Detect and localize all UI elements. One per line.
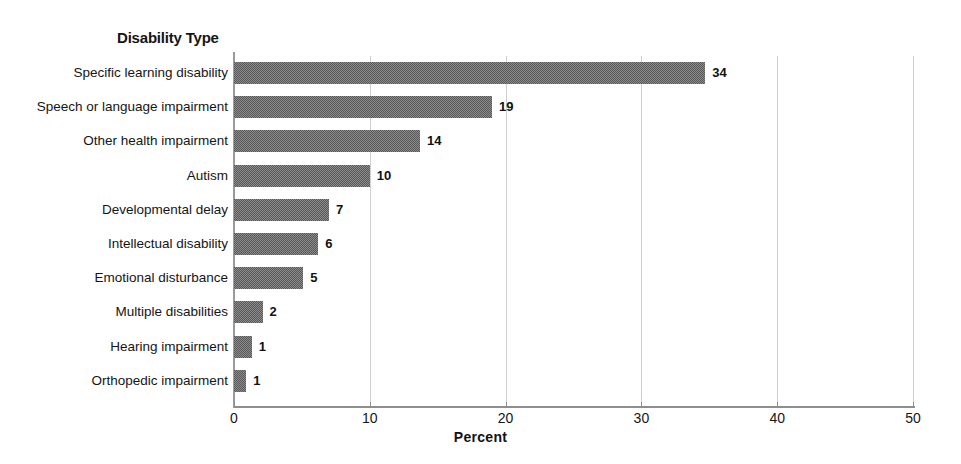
bar-row: 6	[234, 227, 913, 261]
category-label: Orthopedic impairment	[8, 373, 228, 388]
bar[interactable]	[234, 301, 263, 323]
tick-mark-0	[234, 402, 235, 407]
bar-row: 34	[234, 56, 913, 90]
bar[interactable]	[234, 336, 252, 358]
category-label: Speech or language impairment	[8, 99, 228, 114]
bar-value-label: 34	[712, 65, 726, 80]
x-tick-label-0: 0	[230, 410, 238, 426]
bar[interactable]	[234, 96, 492, 118]
chart-figure: Disability Type 34191410765211 Specific …	[0, 0, 961, 464]
bar-value-label: 5	[310, 270, 317, 285]
tick-mark-10	[370, 402, 371, 407]
category-label: Other health impairment	[8, 133, 228, 148]
x-tick-label-30: 30	[634, 410, 650, 426]
bar[interactable]	[234, 62, 705, 84]
bar-row: 14	[234, 124, 913, 158]
bar-value-label: 1	[253, 373, 260, 388]
bar-value-label: 10	[377, 168, 391, 183]
category-axis-labels: Specific learning disabilitySpeech or la…	[0, 56, 228, 406]
tick-mark-20	[506, 402, 507, 407]
bar-row: 2	[234, 295, 913, 329]
x-tick-label-20: 20	[498, 410, 514, 426]
gridline-50	[913, 56, 914, 406]
x-tick-label-40: 40	[769, 410, 785, 426]
bar-value-label: 7	[336, 202, 343, 217]
bar-row: 1	[234, 364, 913, 398]
bar[interactable]	[234, 267, 303, 289]
category-label: Hearing impairment	[8, 339, 228, 354]
bar-value-label: 6	[325, 236, 332, 251]
bar[interactable]	[234, 370, 246, 392]
bar[interactable]	[234, 233, 318, 255]
bar-row: 7	[234, 193, 913, 227]
x-axis-line	[234, 406, 915, 408]
category-label: Multiple disabilities	[8, 304, 228, 319]
bar[interactable]	[234, 165, 370, 187]
x-tick-label-50: 50	[905, 410, 921, 426]
category-label: Developmental delay	[8, 202, 228, 217]
bar-value-label: 1	[259, 339, 266, 354]
bar-value-label: 14	[427, 133, 441, 148]
plot-area: 34191410765211	[234, 56, 913, 406]
tick-mark-50	[913, 402, 914, 407]
bar-value-label: 2	[270, 304, 277, 319]
category-label: Intellectual disability	[8, 236, 228, 251]
bar[interactable]	[234, 130, 420, 152]
chart-title: Disability Type	[117, 29, 219, 46]
category-label: Autism	[8, 168, 228, 183]
bar-row: 10	[234, 159, 913, 193]
tick-mark-30	[641, 402, 642, 407]
bar-row: 5	[234, 261, 913, 295]
bar[interactable]	[234, 199, 329, 221]
x-tick-label-10: 10	[362, 410, 378, 426]
bar-value-label: 19	[499, 99, 513, 114]
x-axis-title: Percent	[0, 429, 961, 445]
tick-mark-40	[777, 402, 778, 407]
category-label: Emotional disturbance	[8, 270, 228, 285]
bar-row: 19	[234, 90, 913, 124]
bar-row: 1	[234, 330, 913, 364]
category-label: Specific learning disability	[8, 65, 228, 80]
